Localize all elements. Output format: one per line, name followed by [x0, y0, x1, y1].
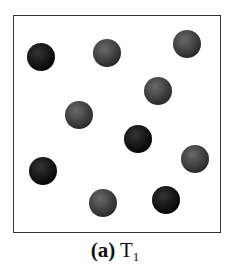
gray-particle [65, 101, 93, 129]
figure-caption: (a) T1 [0, 238, 230, 265]
gray-particle [181, 145, 209, 173]
dark-particle [27, 43, 55, 71]
dark-particle [124, 125, 152, 153]
caption-label: (a) [91, 238, 116, 262]
temperature-subscript: 1 [133, 249, 140, 264]
gray-particle [144, 77, 172, 105]
dark-particle [152, 186, 180, 214]
particles-layer [0, 0, 230, 270]
dark-particle [29, 157, 57, 185]
gray-particle [93, 39, 121, 67]
gray-particle [89, 189, 117, 217]
gray-particle [173, 30, 201, 58]
temperature-symbol: T [120, 238, 133, 262]
